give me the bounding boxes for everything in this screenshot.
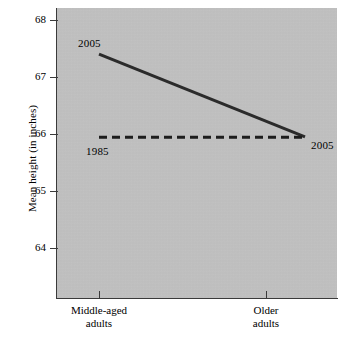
- annotation-1985: 1985: [86, 146, 109, 157]
- x-tick-mark: [99, 291, 100, 299]
- y-tick-mark: [50, 77, 58, 78]
- chart-figure: 68 67 66 65 64 Mean height (in inches) M…: [0, 0, 350, 342]
- annotation-2005-end: 2005: [311, 140, 334, 151]
- x-tick-label: Older adults: [206, 304, 326, 330]
- y-axis-line: [56, 8, 57, 299]
- y-tick-mark: [50, 20, 58, 21]
- x-tick-label: Middle-aged adults: [39, 304, 159, 330]
- y-tick-mark: [50, 191, 58, 192]
- y-tick-mark: [50, 248, 58, 249]
- y-axis-title: Mean height (in inches): [27, 64, 38, 254]
- annotation-2005-start: 2005: [78, 38, 101, 49]
- x-tick-mark: [266, 291, 267, 299]
- y-tick-label: 68: [35, 14, 46, 25]
- y-tick-mark: [50, 134, 58, 135]
